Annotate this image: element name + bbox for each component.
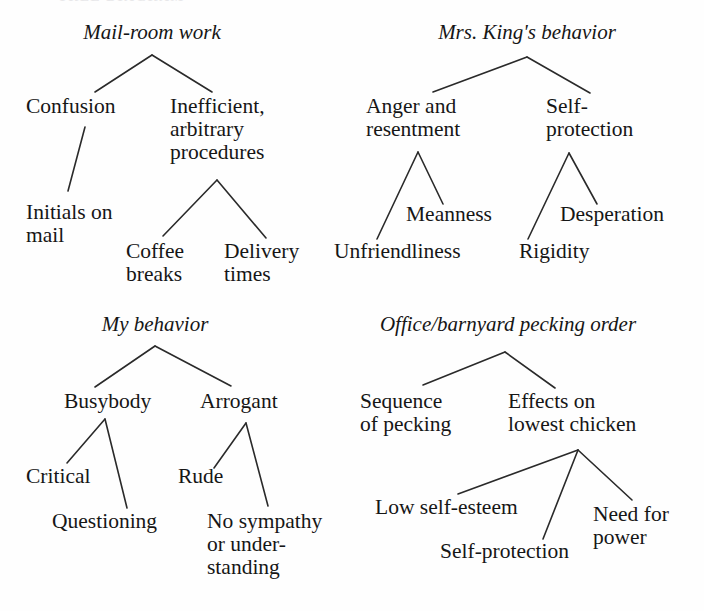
- node-questioning: Questioning: [52, 510, 157, 533]
- link-selfprot-rigidity: [528, 153, 569, 239]
- node-desperation: Desperation: [560, 203, 664, 226]
- node-inefficient-arbitrary-procedures: Inefficient, arbitrary procedures: [170, 95, 265, 163]
- node-self-protection-king: Self- protection: [546, 95, 633, 141]
- link-pecking-sequence: [423, 352, 505, 385]
- node-busybody: Busybody: [64, 390, 151, 413]
- node-arrogant: Arrogant: [200, 390, 278, 413]
- link-mybehavior-arrogant: [155, 346, 231, 386]
- link-procedures-coffee: [163, 180, 217, 236]
- node-coffee-breaks: Coffee breaks: [126, 240, 184, 286]
- node-self-protection-chicken: Self-protection: [440, 540, 569, 563]
- node-rigidity: Rigidity: [519, 240, 589, 263]
- node-initials-on-mail: Initials on mail: [26, 201, 113, 247]
- tree-root-my-behavior: My behavior: [102, 313, 209, 335]
- link-busybody-questioning: [105, 419, 127, 508]
- link-pecking-effects: [505, 352, 555, 388]
- node-rude: Rude: [178, 465, 223, 488]
- node-sequence-of-pecking: Sequence of pecking: [360, 390, 451, 436]
- link-arrogant-rude: [214, 423, 246, 468]
- link-mybehavior-busybody: [95, 346, 155, 387]
- node-low-self-esteem: Low self-esteem: [375, 496, 518, 519]
- node-delivery-times: Delivery times: [224, 240, 299, 286]
- link-effects-needforpower: [578, 450, 632, 500]
- link-king-selfprotection: [527, 57, 590, 93]
- link-mailroom-inefficient: [152, 55, 212, 92]
- tree-root-mrs-kings-behavior: Mrs. King's behavior: [438, 21, 616, 43]
- link-effects-selfprotection: [543, 450, 578, 539]
- node-meanness: Meanness: [406, 203, 492, 226]
- node-no-sympathy-or-understanding: No sympathy or under- standing: [207, 510, 322, 578]
- tree-diagram-figure: TREE DIAGRAM: [0, 0, 704, 611]
- node-anger-and-resentment: Anger and resentment: [366, 95, 460, 141]
- link-mailroom-confusion: [95, 55, 152, 92]
- link-effects-lowselfesteem: [458, 450, 578, 494]
- tree-root-office-barnyard-pecking-order: Office/barnyard pecking order: [380, 313, 636, 335]
- link-anger-meanness: [418, 152, 443, 204]
- link-confusion-initials: [68, 127, 85, 191]
- link-arrogant-nosympathy: [246, 423, 268, 506]
- link-selfprot-desperation: [569, 153, 597, 204]
- node-confusion: Confusion: [26, 95, 116, 118]
- link-procedures-delivery: [217, 180, 266, 238]
- link-king-anger: [433, 57, 527, 92]
- node-effects-on-lowest-chicken: Effects on lowest chicken: [508, 390, 636, 436]
- cut-off-running-head: TREE DIAGRAM: [58, 0, 185, 1]
- node-critical: Critical: [26, 465, 90, 488]
- node-unfriendliness: Unfriendliness: [334, 240, 461, 263]
- tree-root-mail-room-work: Mail-room work: [83, 21, 220, 43]
- link-busybody-critical: [67, 419, 105, 463]
- node-need-for-power: Need for power: [593, 503, 669, 549]
